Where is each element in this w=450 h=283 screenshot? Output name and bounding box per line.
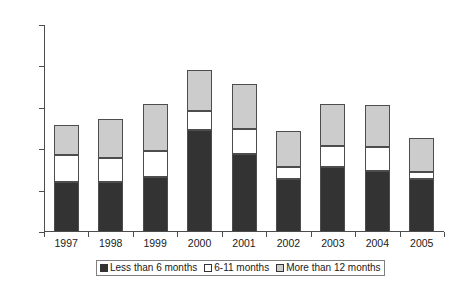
y-axis-line <box>44 25 45 232</box>
bar-segment <box>276 131 301 167</box>
x-axis-tick-label: 2000 <box>175 238 225 249</box>
bar-segment <box>365 171 390 232</box>
bar-segment <box>98 119 123 158</box>
stacked-bar-chart: 0500010000150002000025000 19971998199920… <box>0 0 450 283</box>
legend-item[interactable]: More than 12 months <box>276 263 381 273</box>
bar-segment <box>232 84 257 129</box>
x-axis-tick-label: 1998 <box>86 238 136 249</box>
legend-swatch-icon <box>100 264 108 272</box>
bar-segment <box>409 179 434 232</box>
bar-segment <box>232 129 257 155</box>
bar-segment <box>143 177 168 232</box>
x-axis-tick <box>400 232 401 237</box>
plot-area <box>44 25 444 232</box>
bar-segment <box>320 167 345 232</box>
legend-label: Less than 6 months <box>110 263 197 273</box>
bar-segment <box>98 158 123 182</box>
bar-segment <box>143 104 168 151</box>
legend-item[interactable]: Less than 6 months <box>100 263 197 273</box>
legend-item[interactable]: 6-11 months <box>204 263 269 273</box>
x-axis-tick <box>266 232 267 237</box>
bar-segment <box>365 105 390 146</box>
bar-segment <box>276 167 301 179</box>
bar-segment <box>187 70 212 111</box>
legend-swatch-icon <box>276 264 284 272</box>
bar-segment <box>54 182 79 232</box>
y-axis-tick <box>39 25 44 26</box>
y-axis-tick <box>39 108 44 109</box>
x-axis-tick-label: 2002 <box>263 238 313 249</box>
legend-label: 6-11 months <box>214 263 269 273</box>
bar-segment <box>187 111 212 130</box>
x-axis-tick <box>133 232 134 237</box>
x-axis-tick-label: 1999 <box>130 238 180 249</box>
legend-label: More than 12 months <box>286 263 381 273</box>
x-axis-tick-label: 1997 <box>41 238 91 249</box>
bar-segment <box>276 179 301 232</box>
x-axis-tick-label: 2004 <box>352 238 402 249</box>
chart-legend: Less than 6 months6-11 monthsMore than 1… <box>96 260 385 276</box>
x-axis-tick <box>177 232 178 237</box>
x-axis-tick <box>355 232 356 237</box>
bar-segment <box>54 125 79 155</box>
bar-segment <box>409 172 434 179</box>
x-axis-tick <box>44 232 45 237</box>
y-axis-tick <box>39 191 44 192</box>
legend-swatch-icon <box>204 264 212 272</box>
bar-segment <box>98 182 123 232</box>
bar-segment <box>320 104 345 146</box>
x-axis-tick <box>311 232 312 237</box>
bar-segment <box>54 155 79 182</box>
x-axis-tick <box>88 232 89 237</box>
x-axis-tick <box>222 232 223 237</box>
y-axis-tick <box>39 66 44 67</box>
bar-segment <box>409 138 434 172</box>
x-axis-tick-label: 2003 <box>308 238 358 249</box>
bar-segment <box>365 147 390 171</box>
bar-segment <box>320 146 345 167</box>
x-axis-tick-label: 2005 <box>397 238 447 249</box>
bar-segment <box>232 154 257 232</box>
bar-segment <box>187 130 212 232</box>
y-axis-tick <box>39 149 44 150</box>
bar-segment <box>143 151 168 177</box>
x-axis-tick-label: 2001 <box>219 238 269 249</box>
x-axis-tick <box>444 232 445 237</box>
